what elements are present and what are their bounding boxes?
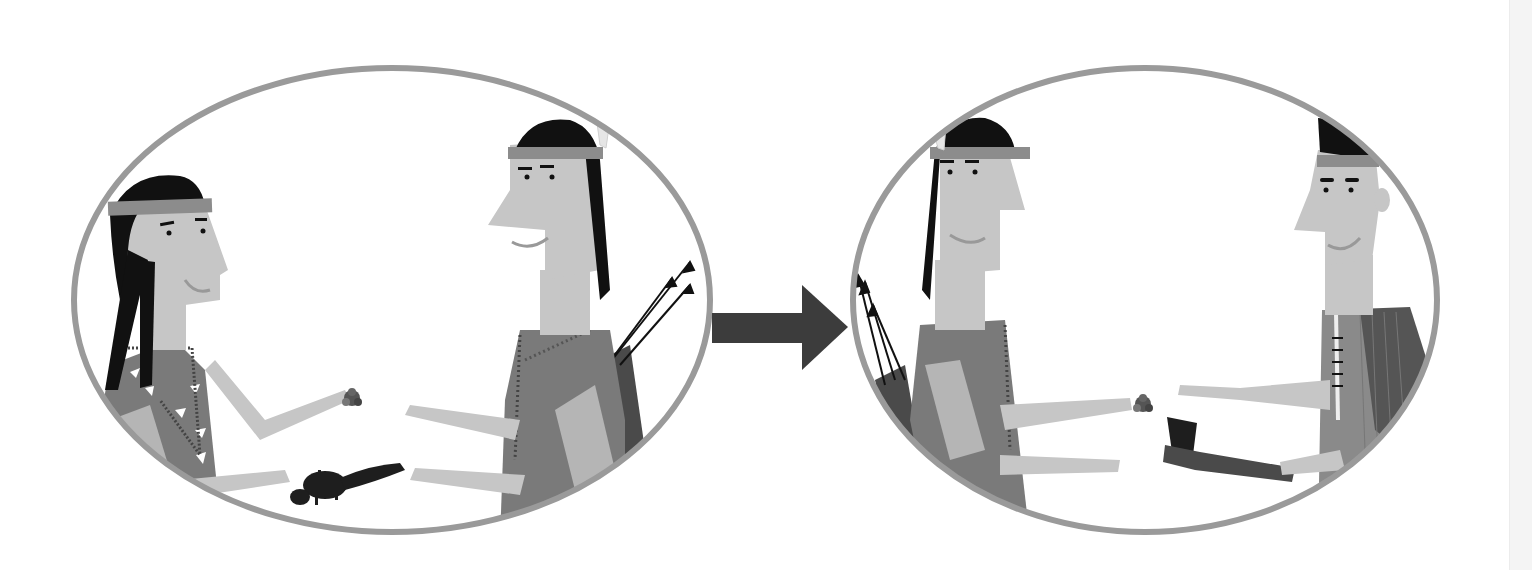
beads-right xyxy=(1133,394,1153,412)
man-arm-upper xyxy=(405,405,520,440)
illustration-stage xyxy=(0,0,1532,570)
man-head xyxy=(488,140,600,280)
gray-feathers xyxy=(1372,45,1455,165)
man-headband xyxy=(508,147,603,159)
tomahawk xyxy=(1163,417,1295,482)
man-smile xyxy=(512,238,548,246)
man-feather-figure-right-panel xyxy=(855,55,1132,545)
man-arm-upper xyxy=(1000,398,1132,430)
right-edge-strip xyxy=(1509,0,1532,570)
man-headband xyxy=(930,147,1030,159)
man-headband xyxy=(1317,155,1379,167)
man-arm-lower xyxy=(1000,455,1120,475)
man-arm-upper xyxy=(1178,380,1330,410)
left-panel xyxy=(74,65,710,540)
right-panel xyxy=(853,45,1455,545)
right-arrow-icon xyxy=(712,285,848,370)
squirrel xyxy=(290,463,405,505)
mohawk-necklace xyxy=(1336,312,1338,420)
white-feather xyxy=(597,65,610,148)
man-feather-figure-left-panel xyxy=(405,65,694,540)
trade-illustration xyxy=(0,0,1532,570)
woman-arm-upper xyxy=(205,360,350,440)
arrows xyxy=(605,262,694,368)
arrows xyxy=(855,275,905,385)
